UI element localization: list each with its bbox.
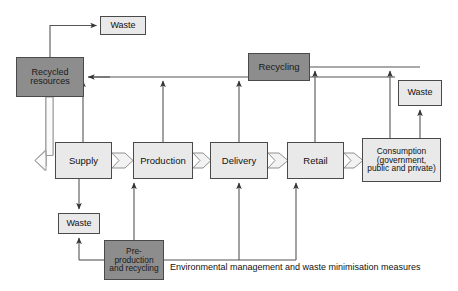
chevron-delivery-retail xyxy=(268,153,288,168)
diagram-caption: Environmental management and waste minim… xyxy=(170,262,421,272)
node-waste-right[interactable]: Waste xyxy=(398,80,442,106)
node-consumption-label: Consumption (government, public and priv… xyxy=(363,147,440,173)
node-pre-production-label: Pre- production and recycling xyxy=(105,247,163,273)
node-recycling[interactable]: Recycling xyxy=(248,53,310,81)
chevron-supply-production xyxy=(112,153,133,168)
node-production[interactable]: Production xyxy=(133,142,193,179)
node-supply[interactable]: Supply xyxy=(55,142,112,179)
node-waste-left-label: Waste xyxy=(59,219,99,228)
edge-recycled-to-waste-top xyxy=(50,26,97,58)
node-recycling-label: Recycling xyxy=(249,62,309,72)
node-consumption[interactable]: Consumption (government, public and priv… xyxy=(362,138,441,182)
node-delivery[interactable]: Delivery xyxy=(210,142,268,179)
node-waste-top-label: Waste xyxy=(101,21,145,30)
node-pre-production[interactable]: Pre- production and recycling xyxy=(104,240,164,280)
node-supply-label: Supply xyxy=(56,156,111,166)
node-delivery-label: Delivery xyxy=(211,156,267,166)
node-waste-right-label: Waste xyxy=(399,88,441,97)
node-waste-top[interactable]: Waste xyxy=(100,16,146,35)
node-waste-left[interactable]: Waste xyxy=(58,213,100,234)
node-recycled-resources[interactable]: Recycled resources xyxy=(16,57,84,97)
node-retail[interactable]: Retail xyxy=(287,142,344,179)
edge-recycled-to-supply-hollow xyxy=(35,97,53,171)
chevron-production-delivery xyxy=(193,153,211,168)
node-production-label: Production xyxy=(134,156,192,166)
node-retail-label: Retail xyxy=(288,156,343,166)
node-recycled-resources-label: Recycled resources xyxy=(17,68,83,87)
chevron-retail-consumption xyxy=(344,153,363,168)
waste-minimisation-flow-diagram: Waste Recycled resources Recycling Waste… xyxy=(0,0,458,291)
